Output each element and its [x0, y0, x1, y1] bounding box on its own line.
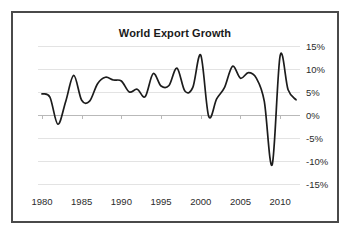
x-tick-label: 2010 — [270, 196, 291, 207]
y-tick-label: -15% — [306, 179, 350, 190]
y-tick-label: 15% — [306, 41, 350, 52]
series-line-world-export-growth — [42, 53, 296, 165]
x-tick-label: 1995 — [150, 196, 171, 207]
y-tick-label: -10% — [306, 156, 350, 167]
y-tick-label: 0% — [306, 110, 350, 121]
plot-area: 15%10%5%0%-5%-10%-15% 198019851990199520… — [38, 46, 300, 184]
y-tick-label: 5% — [306, 87, 350, 98]
x-tick-label: 1990 — [111, 196, 132, 207]
chart-frame: World Export Growth 15%10%5%0%-5%-10%-15… — [11, 11, 339, 223]
chart-figure: World Export Growth 15%10%5%0%-5%-10%-15… — [0, 0, 350, 234]
x-tick-label: 1985 — [71, 196, 92, 207]
x-tick-label: 2000 — [190, 196, 211, 207]
x-tick-label: 1980 — [31, 196, 52, 207]
gridline-neg15 — [38, 184, 300, 185]
series-line-chart — [38, 46, 300, 184]
x-tick-label: 2005 — [230, 196, 251, 207]
chart-title: World Export Growth — [13, 27, 337, 39]
y-tick-label: 10% — [306, 64, 350, 75]
y-tick-label: -5% — [306, 133, 350, 144]
